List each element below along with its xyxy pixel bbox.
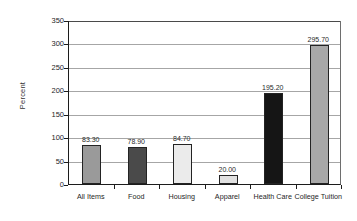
bar-value-label: 295.70	[293, 36, 343, 44]
x-tick-mark	[159, 185, 160, 189]
bar	[173, 144, 192, 184]
gridline	[69, 115, 340, 116]
y-tick-label: 0	[30, 181, 64, 189]
bar	[219, 175, 238, 184]
y-tick-label: 250	[30, 64, 64, 72]
y-tick-label: 50	[30, 158, 64, 166]
gridline	[69, 68, 340, 69]
gridline	[69, 21, 340, 22]
y-tick-label: 200	[30, 87, 64, 95]
bar	[264, 93, 283, 184]
plot-area	[68, 21, 341, 185]
bar-value-label: 83.30	[66, 136, 116, 144]
bar-value-label: 84.70	[157, 135, 207, 143]
x-tick-mark	[341, 185, 342, 189]
y-tick-label: 300	[30, 40, 64, 48]
x-category-label: College Tuition	[288, 192, 348, 201]
y-tick-label: 150	[30, 111, 64, 119]
bar	[310, 45, 329, 184]
y-tick-mark	[64, 185, 68, 186]
gridline	[69, 91, 340, 92]
gridline	[69, 162, 340, 163]
bar	[128, 147, 147, 184]
bar	[82, 145, 101, 184]
bar-chart: Percent 050100150200250300350 83.3078.90…	[0, 0, 357, 221]
y-axis-title-text: Percent	[19, 81, 28, 108]
gridline	[69, 44, 340, 45]
bar-value-label: 20.00	[202, 166, 252, 174]
x-tick-mark	[296, 185, 297, 189]
y-tick-label: 100	[30, 134, 64, 142]
x-tick-mark	[114, 185, 115, 189]
x-tick-mark	[250, 185, 251, 189]
bar-value-label: 78.90	[111, 138, 161, 146]
y-tick-label: 350	[30, 17, 64, 25]
x-tick-mark	[205, 185, 206, 189]
bar-value-label: 195.20	[248, 84, 298, 92]
